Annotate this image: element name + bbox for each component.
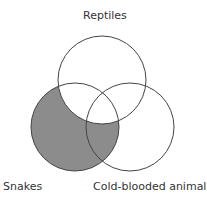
snakes-label: Snakes (3, 181, 42, 193)
venn-diagram (0, 0, 207, 200)
cold-blooded-label: Cold-blooded animals (93, 181, 207, 193)
shaded-region (0, 0, 207, 200)
reptiles-label: Reptiles (83, 10, 127, 22)
